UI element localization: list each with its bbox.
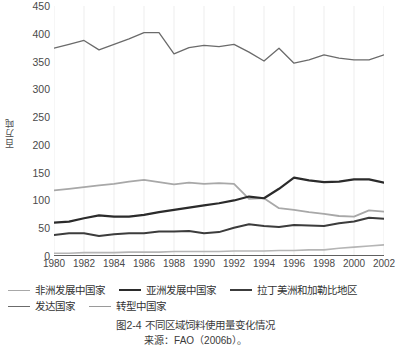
y-axis-tick: 350 bbox=[32, 57, 50, 67]
series-line bbox=[54, 245, 384, 253]
y-axis-tick: 400 bbox=[32, 29, 50, 39]
y-axis-tick: 250 bbox=[32, 112, 50, 122]
x-axis-tick: 1990 bbox=[193, 258, 215, 269]
legend-item[interactable]: 非洲发展中国家 bbox=[8, 284, 105, 296]
legend-label: 亚洲发展中国家 bbox=[146, 284, 216, 296]
x-axis-tick: 2002 bbox=[373, 258, 395, 269]
chart-canvas bbox=[54, 6, 384, 256]
x-axis-tick: 1982 bbox=[73, 258, 95, 269]
legend-label: 发达国家 bbox=[35, 300, 75, 312]
x-axis-tick: 1996 bbox=[283, 258, 305, 269]
series-line bbox=[54, 33, 384, 64]
series-line bbox=[54, 180, 384, 217]
y-axis-tick: 450 bbox=[32, 1, 50, 11]
legend-row: 非洲发展中国家亚洲发展中国家拉丁美洲和加勒比地区 bbox=[8, 282, 386, 298]
chart-plot-area: 百万吨 450400350300250200150100500 19801982… bbox=[0, 0, 391, 278]
x-axis-tick: 1986 bbox=[133, 258, 155, 269]
x-axis-tick: 1988 bbox=[163, 258, 185, 269]
x-axis-tick: 2000 bbox=[343, 258, 365, 269]
y-axis-tick: 50 bbox=[38, 223, 50, 233]
y-axis-tick: 100 bbox=[32, 195, 50, 205]
x-axis-tick: 1992 bbox=[223, 258, 245, 269]
x-axis-tick-labels: 1980198219841986198819901992199419961998… bbox=[54, 258, 384, 276]
legend-swatch-icon bbox=[89, 306, 111, 307]
series-line bbox=[54, 218, 384, 236]
legend-swatch-icon bbox=[8, 290, 30, 291]
chart-svg bbox=[54, 6, 384, 256]
legend-label: 拉丁美洲和加勒比地区 bbox=[257, 284, 357, 296]
legend-row: 发达国家转型中国家 bbox=[8, 298, 386, 314]
y-axis-tick: 300 bbox=[32, 84, 50, 94]
legend-item[interactable]: 发达国家 bbox=[8, 300, 75, 312]
series-lines-group bbox=[54, 33, 384, 254]
legend-item[interactable]: 亚洲发展中国家 bbox=[119, 284, 216, 296]
figure-caption: 图2-4 不同区域饲料使用量变化情况 bbox=[0, 318, 391, 332]
legend-item[interactable]: 转型中国家 bbox=[89, 300, 166, 312]
legend-item[interactable]: 拉丁美洲和加勒比地区 bbox=[230, 284, 357, 296]
figure-source: 来源：FAO（2006b）。 bbox=[0, 334, 391, 348]
legend-label: 非洲发展中国家 bbox=[35, 284, 105, 296]
y-axis-tick-labels: 450400350300250200150100500 bbox=[14, 0, 50, 262]
caption-block: 图2-4 不同区域饲料使用量变化情况 来源：FAO（2006b）。 bbox=[0, 318, 391, 348]
legend-label: 转型中国家 bbox=[116, 300, 166, 312]
legend-swatch-icon bbox=[8, 306, 30, 307]
x-axis-tick: 1994 bbox=[253, 258, 275, 269]
chart-legend: 非洲发展中国家亚洲发展中国家拉丁美洲和加勒比地区发达国家转型中国家 bbox=[8, 282, 386, 314]
y-axis-tick: 200 bbox=[32, 140, 50, 150]
y-axis-tick: 150 bbox=[32, 168, 50, 178]
vertical-gridlines bbox=[54, 6, 384, 256]
x-axis-tick: 1984 bbox=[103, 258, 125, 269]
x-axis-tick: 1998 bbox=[313, 258, 335, 269]
legend-swatch-icon bbox=[119, 289, 141, 291]
x-axis-tick: 1980 bbox=[43, 258, 65, 269]
legend-swatch-icon bbox=[230, 289, 252, 291]
